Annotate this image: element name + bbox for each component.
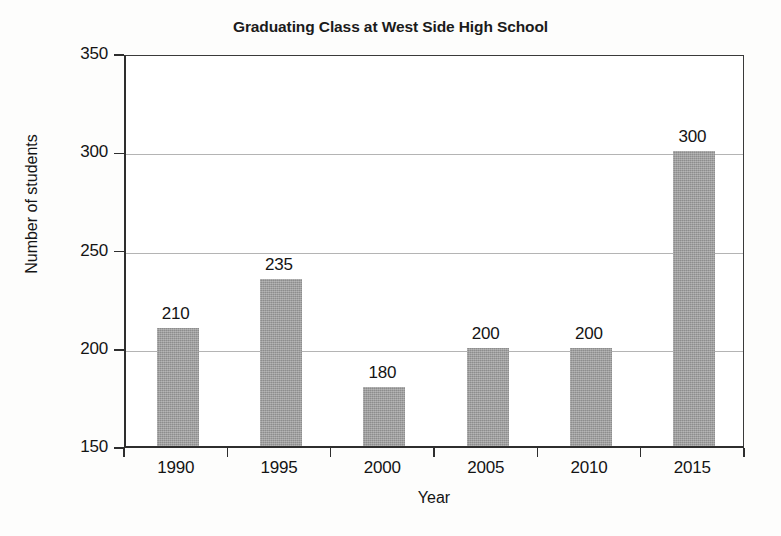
y-tick-mark bbox=[114, 54, 124, 56]
x-tick-mark bbox=[123, 448, 125, 457]
x-tick-label: 2000 bbox=[331, 458, 434, 478]
x-axis-label: Year bbox=[124, 489, 744, 507]
x-tick-label: 1995 bbox=[228, 458, 331, 478]
x-tick-mark bbox=[743, 448, 745, 457]
y-tick-label: 200 bbox=[34, 339, 108, 359]
bar bbox=[673, 151, 715, 446]
bar-value-label: 180 bbox=[342, 363, 422, 383]
bar bbox=[467, 348, 509, 446]
bar-value-label: 210 bbox=[136, 304, 216, 324]
bar bbox=[570, 348, 612, 446]
bar bbox=[157, 328, 199, 446]
x-tick-mark bbox=[537, 448, 539, 457]
gridline bbox=[126, 351, 743, 352]
bar bbox=[260, 279, 302, 446]
y-tick-mark bbox=[114, 153, 124, 155]
gridline bbox=[126, 253, 743, 254]
gridline bbox=[126, 154, 743, 155]
y-axis-label: Number of students bbox=[23, 104, 41, 304]
chart-title: Graduating Class at West Side High Schoo… bbox=[0, 18, 781, 36]
plot-area bbox=[124, 55, 744, 448]
chart-figure: Graduating Class at West Side High Schoo… bbox=[0, 0, 781, 536]
x-tick-mark bbox=[330, 448, 332, 457]
bar-value-label: 200 bbox=[446, 324, 526, 344]
y-tick-label: 300 bbox=[34, 142, 108, 162]
x-tick-label: 2015 bbox=[641, 458, 744, 478]
x-tick-label: 2010 bbox=[538, 458, 641, 478]
x-tick-mark bbox=[433, 448, 435, 457]
x-tick-label: 2005 bbox=[434, 458, 537, 478]
y-tick-mark bbox=[114, 251, 124, 253]
bar bbox=[363, 387, 405, 446]
bar-value-label: 200 bbox=[549, 324, 629, 344]
bar-value-label: 235 bbox=[239, 255, 319, 275]
x-tick-mark bbox=[227, 448, 229, 457]
y-tick-label: 150 bbox=[34, 437, 108, 457]
y-tick-mark bbox=[114, 349, 124, 351]
x-tick-label: 1990 bbox=[124, 458, 227, 478]
y-tick-label: 350 bbox=[34, 44, 108, 64]
y-tick-label: 250 bbox=[34, 241, 108, 261]
bar-value-label: 300 bbox=[652, 127, 732, 147]
x-tick-mark bbox=[640, 448, 642, 457]
